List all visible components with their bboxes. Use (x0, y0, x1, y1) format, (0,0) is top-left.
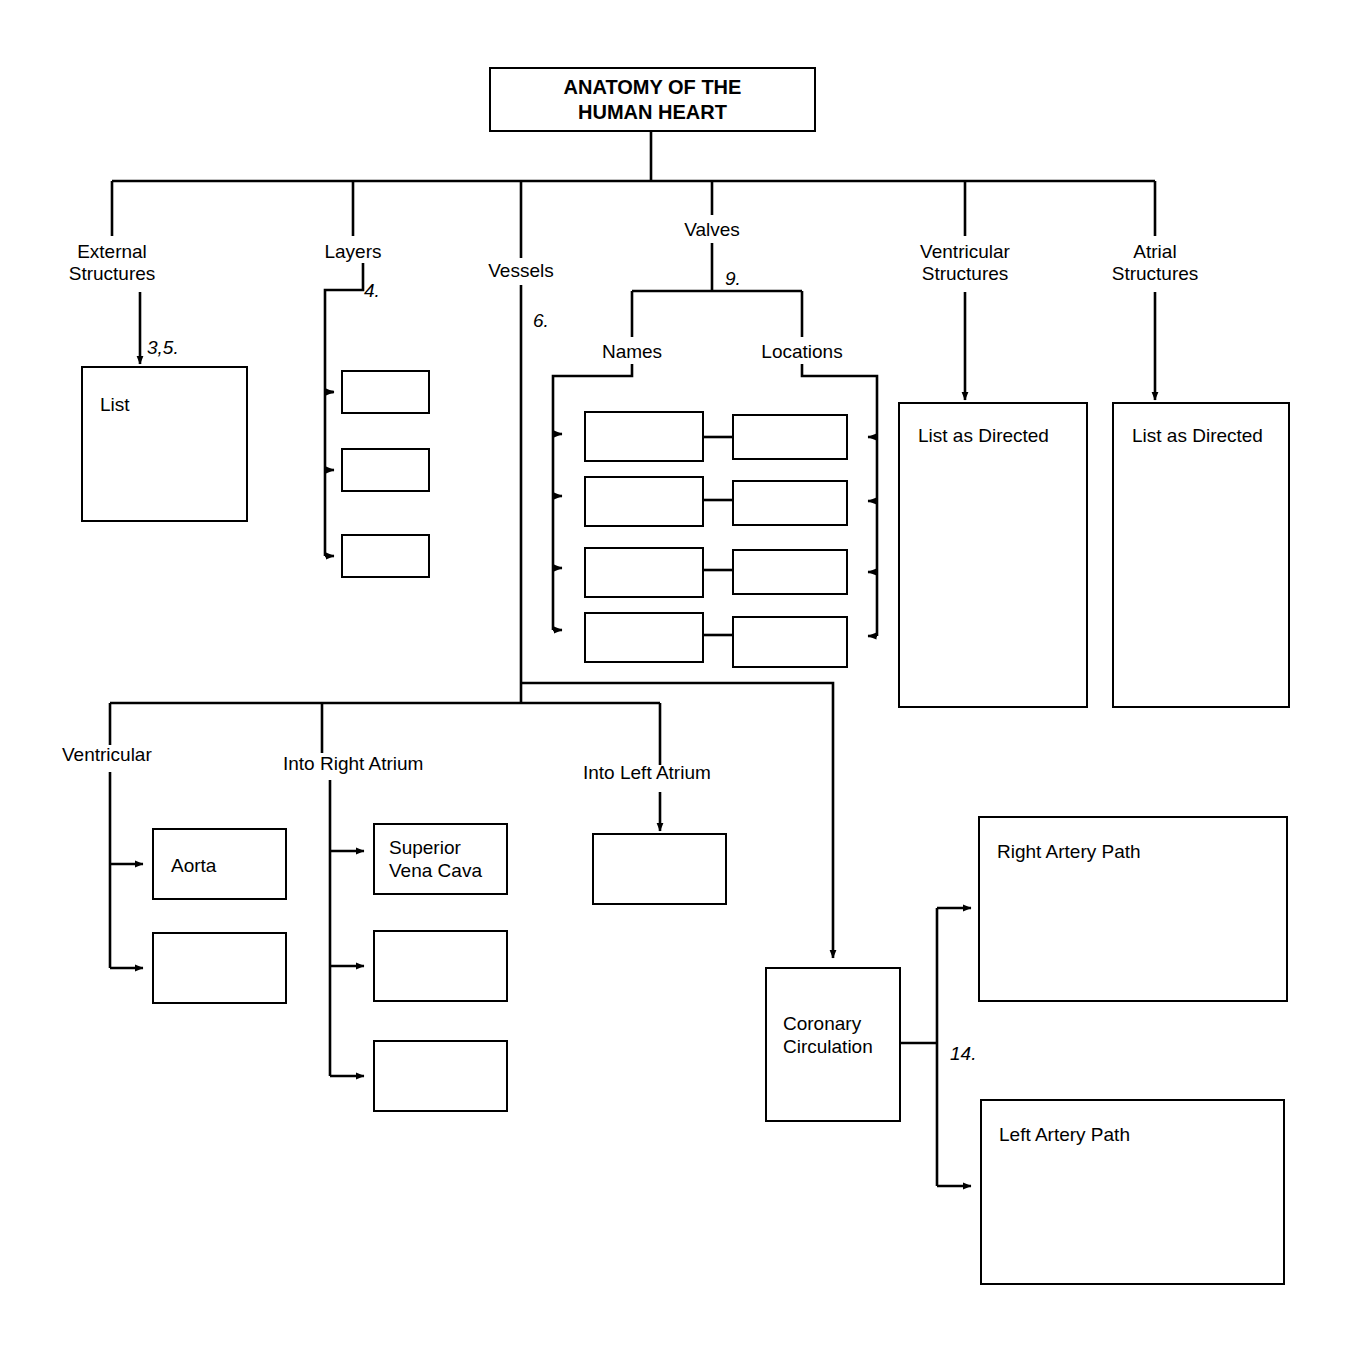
step-number-6: 6. (533, 310, 549, 332)
box-right-atrium-vessel-1[interactable]: Superior Vena Cava (373, 823, 508, 895)
box-left-artery-path[interactable]: Left Artery Path (980, 1099, 1285, 1285)
branch-label-atrial-structures: Atrial Structures (1085, 241, 1225, 285)
branch-label-external-structures: External Structures (42, 241, 182, 285)
box-right-atrium-vessel-1-label: Superior Vena Cava (389, 836, 482, 882)
sub-branch-label-locations: Locations (742, 341, 862, 363)
box-valve-location-2[interactable] (732, 480, 848, 526)
box-coronary-circulation-label: Coronary Circulation (783, 1012, 873, 1058)
box-coronary-circulation[interactable]: Coronary Circulation (765, 967, 901, 1122)
box-ventricular-vessel-2[interactable] (152, 932, 287, 1004)
box-atrial-list-label: List as Directed (1132, 424, 1263, 447)
box-layer-3[interactable] (341, 534, 430, 578)
box-valve-name-3[interactable] (584, 547, 704, 598)
box-ventricular-list-label: List as Directed (918, 424, 1049, 447)
box-valve-location-3[interactable] (732, 549, 848, 595)
step-number-14: 14. (950, 1043, 976, 1065)
branch-label-ventricular-structures: Ventricular Structures (895, 241, 1035, 285)
box-ventricular-list[interactable]: List as Directed (898, 402, 1088, 708)
box-ventricular-vessel-1-label: Aorta (171, 854, 216, 877)
box-valve-name-2[interactable] (584, 476, 704, 527)
box-external-list-label: List (100, 393, 130, 416)
branch-label-vessels: Vessels (461, 260, 581, 282)
box-atrial-list[interactable]: List as Directed (1112, 402, 1290, 708)
root-title-box: ANATOMY OF THE HUMAN HEART (489, 67, 816, 132)
step-number-4: 4. (364, 280, 380, 302)
sub-branch-label-into-right-atrium: Into Right Atrium (283, 753, 513, 775)
branch-label-valves: Valves (652, 219, 772, 241)
root-title-text: ANATOMY OF THE HUMAN HEART (564, 75, 742, 125)
sub-branch-label-into-left-atrium: Into Left Atrium (583, 762, 783, 784)
box-valve-location-4[interactable] (732, 616, 848, 668)
box-right-artery-path-label: Right Artery Path (997, 840, 1141, 863)
box-layer-1[interactable] (341, 370, 430, 414)
concept-map-page: ANATOMY OF THE HUMAN HEART External Stru… (0, 0, 1359, 1351)
box-valve-location-1[interactable] (732, 414, 848, 460)
step-number-9: 9. (725, 268, 741, 290)
box-ventricular-vessel-1[interactable]: Aorta (152, 828, 287, 900)
box-external-list[interactable]: List (81, 366, 248, 522)
box-left-artery-path-label: Left Artery Path (999, 1123, 1130, 1146)
box-right-atrium-vessel-2[interactable] (373, 930, 508, 1002)
line-vessels-to-coronary (521, 683, 833, 958)
step-number-3-5: 3,5. (147, 337, 179, 359)
box-left-atrium-vessel-1[interactable] (592, 833, 727, 905)
box-right-artery-path[interactable]: Right Artery Path (978, 816, 1288, 1002)
box-valve-name-1[interactable] (584, 411, 704, 462)
sub-branch-label-names: Names (572, 341, 692, 363)
box-layer-2[interactable] (341, 448, 430, 492)
sub-branch-label-ventricular: Ventricular (62, 744, 222, 766)
box-right-atrium-vessel-3[interactable] (373, 1040, 508, 1112)
branch-label-layers: Layers (293, 241, 413, 263)
box-valve-name-4[interactable] (584, 612, 704, 663)
